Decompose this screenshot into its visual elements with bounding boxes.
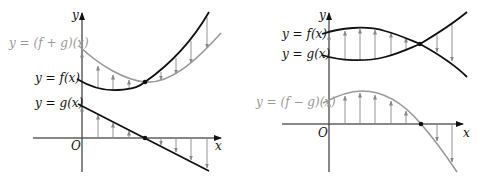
diagram-canvas: y = (f + g)(x) y = f(x) y = g(x) y x O	[0, 0, 477, 183]
right-intersection-dot	[418, 42, 423, 47]
right-label-g: y = g(x)	[281, 47, 331, 61]
right-axis-y-label: y	[318, 8, 326, 22]
right-graph: y = f(x) y = g(x) y = (f − g)(x) y x O	[255, 8, 470, 172]
left-axis-y-label: y	[71, 8, 79, 22]
left-curve-f	[77, 12, 209, 90]
left-sum-arrows	[82, 17, 207, 90]
right-label-diff: y = (f − g)(x)	[255, 95, 336, 109]
right-curve-f	[322, 12, 467, 44]
left-curve-f-plus-g	[79, 33, 221, 82]
left-label-g: y = g(x)	[34, 96, 84, 110]
left-origin-label: O	[71, 139, 81, 153]
left-intersection-dot	[143, 80, 148, 85]
right-curve-g	[322, 44, 467, 77]
left-label-sum: y = (f + g)(x)	[8, 36, 89, 50]
left-label-f: y = f(x)	[34, 71, 80, 85]
left-root-dot	[143, 136, 148, 141]
right-label-f: y = f(x)	[281, 27, 327, 41]
right-root-dot	[419, 122, 424, 127]
left-axis-x-label: x	[215, 139, 222, 153]
right-axis-x-label: x	[463, 126, 470, 140]
right-origin-label: O	[318, 126, 328, 140]
left-graph: y = (f + g)(x) y = f(x) y = g(x) y x O	[8, 8, 222, 172]
right-diff-arrows	[329, 93, 452, 162]
